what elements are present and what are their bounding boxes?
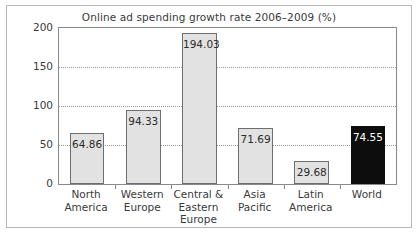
gridline [59, 145, 396, 146]
x-axis-category-label: Central &EasternEurope [170, 188, 226, 226]
y-axis-tick-label: 50 [40, 138, 53, 150]
y-axis-tick-label: 100 [33, 99, 53, 111]
x-axis-category-label-line: Latin [283, 188, 339, 201]
x-axis-category-label-line: Pacific [227, 201, 283, 214]
bar[interactable]: 194.03 [182, 33, 217, 184]
x-axis-category-label-line: Central & [170, 188, 226, 201]
x-axis-category-label-line: World [339, 188, 395, 201]
bar[interactable]: 74.55 [351, 126, 386, 184]
bar[interactable]: 64.86 [70, 133, 105, 184]
bar[interactable]: 71.69 [238, 128, 273, 184]
y-axis-tick-label: 150 [33, 60, 53, 72]
y-axis-tick-labels: 050100150200 [7, 27, 53, 183]
chart-title: Online ad spending growth rate 2006–2009… [7, 11, 411, 23]
x-axis-category-label-line: North [58, 188, 114, 201]
x-axis-category-label: WesternEurope [114, 188, 170, 213]
x-axis-category-label: LatinAmerica [283, 188, 339, 213]
x-axis-category-label-line: Europe [114, 201, 170, 214]
bar-value-label: 74.55 [352, 131, 385, 143]
bar-value-label: 94.33 [127, 115, 160, 127]
x-axis-category-label-line: Eastern [170, 201, 226, 214]
y-axis-tick-label: 0 [46, 177, 53, 189]
bar-value-label: 29.68 [295, 166, 328, 178]
x-axis-category-label: World [339, 188, 395, 201]
x-axis-category-label: NorthAmerica [58, 188, 114, 213]
x-axis-category-label-line: Asia [227, 188, 283, 201]
gridline [59, 106, 396, 107]
x-axis-category-label-line: Western [114, 188, 170, 201]
bar[interactable]: 94.33 [126, 110, 161, 184]
bar-value-label: 194.03 [183, 38, 216, 50]
bar-value-label: 64.86 [71, 138, 104, 150]
bar[interactable]: 29.68 [294, 161, 329, 184]
plot-area: 64.8694.33194.0371.6929.6874.55 [58, 27, 397, 185]
x-axis-category-label: AsiaPacific [227, 188, 283, 213]
chart-figure: Online ad spending growth rate 2006–2009… [6, 5, 412, 228]
x-axis-category-label-line: America [58, 201, 114, 214]
x-axis-category-label-line: Europe [170, 213, 226, 226]
x-axis-category-labels: NorthAmericaWesternEuropeCentral &Easter… [58, 188, 395, 232]
x-axis-category-label-line: America [283, 201, 339, 214]
y-axis-tick-label: 200 [33, 21, 53, 33]
bar-value-label: 71.69 [239, 133, 272, 145]
gridline [59, 67, 396, 68]
